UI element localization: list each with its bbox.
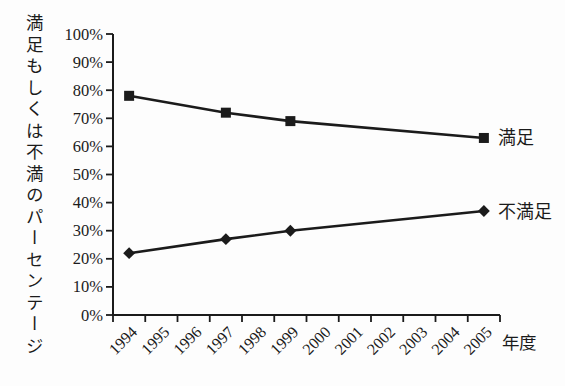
y-tick-label: 100% — [65, 25, 104, 44]
data-point-diamond-marker — [220, 233, 232, 245]
y-tick-label: 80% — [73, 81, 104, 100]
y-axis-title: 満足もしくは不満のパーセンテージ — [21, 14, 46, 380]
y-tick-label: 30% — [73, 221, 104, 240]
x-axis-title: 年度 — [502, 333, 536, 353]
data-point-square-marker — [479, 133, 489, 143]
x-category-label: 2005 — [460, 323, 495, 358]
data-point-diamond-marker — [478, 205, 490, 217]
y-tick-label: 70% — [73, 109, 104, 128]
data-point-diamond-marker — [123, 247, 135, 259]
series-label-dissatisfied: 不満足 — [498, 201, 552, 222]
x-category-label: 1995 — [138, 323, 173, 358]
series-line-dissatisfied — [129, 211, 484, 253]
x-category-label: 1998 — [235, 323, 270, 358]
y-tick-label: 0% — [81, 306, 103, 325]
x-category-label: 2003 — [396, 323, 431, 358]
y-tick-label: 60% — [73, 137, 104, 156]
data-point-square-marker — [124, 91, 134, 101]
y-tick-label: 40% — [73, 193, 104, 212]
chart-canvas: 満足もしくは不満のパーセンテージ 0%10%20%30%40%50%60%70%… — [0, 0, 565, 386]
series-line-satisfied — [129, 96, 484, 138]
x-category-label: 2000 — [299, 323, 334, 358]
y-tick-label: 10% — [73, 277, 104, 296]
series-label-satisfied: 満足 — [498, 127, 534, 148]
x-category-label: 2001 — [331, 323, 366, 358]
x-category-label: 1996 — [170, 323, 205, 358]
y-tick-label: 20% — [73, 249, 104, 268]
x-category-label: 1999 — [267, 323, 302, 358]
x-category-label: 2002 — [364, 323, 399, 358]
x-category-label: 1994 — [106, 323, 141, 358]
data-point-square-marker — [221, 108, 231, 118]
y-tick-label: 90% — [73, 53, 104, 72]
x-category-label: 2004 — [428, 323, 463, 358]
line-chart: 0%10%20%30%40%50%60%70%80%90%100%1994199… — [0, 0, 565, 386]
data-point-diamond-marker — [284, 225, 296, 237]
x-category-label: 1997 — [202, 323, 237, 358]
y-tick-label: 50% — [73, 165, 104, 184]
data-point-square-marker — [285, 116, 295, 126]
